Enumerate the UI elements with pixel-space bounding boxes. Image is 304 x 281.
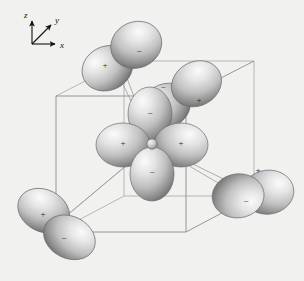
y-axis-arrow (32, 25, 51, 44)
x-axis-label: x (59, 40, 64, 50)
axis-triad: z y x (0, 0, 304, 281)
z-axis-label: z (23, 10, 28, 20)
y-axis-label: y (54, 15, 59, 25)
orbital-figure: + − − + − + + − + − + − z y x (0, 0, 304, 281)
